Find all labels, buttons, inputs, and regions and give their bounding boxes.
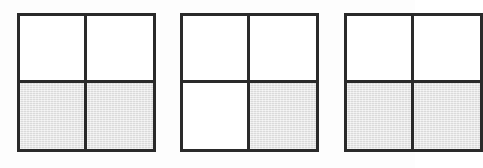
fraction-cell-shaded <box>87 83 154 150</box>
fraction-cell-unshaded <box>414 16 481 83</box>
fraction-square <box>180 13 319 152</box>
fraction-cell-unshaded <box>183 16 250 83</box>
fraction-cell-unshaded <box>87 16 154 83</box>
fraction-cell-unshaded <box>183 83 250 150</box>
fraction-square <box>344 13 483 152</box>
fraction-cell-shaded <box>20 83 87 150</box>
fraction-cell-unshaded <box>20 16 87 83</box>
fraction-cell-shaded <box>250 83 317 150</box>
fraction-cell-unshaded <box>347 16 414 83</box>
fraction-square <box>17 13 156 152</box>
fraction-cell-shaded <box>414 83 481 150</box>
fraction-cell-unshaded <box>250 16 317 83</box>
fraction-cell-shaded <box>347 83 414 150</box>
